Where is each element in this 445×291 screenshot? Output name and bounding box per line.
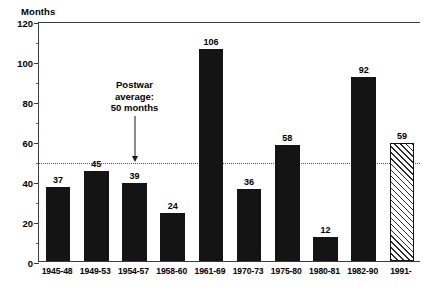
- x-axis-tick-label: 1961-69: [191, 266, 229, 276]
- bar-slot: 92: [345, 23, 383, 261]
- bar-value-label: 36: [244, 177, 254, 187]
- y-axis-tick-label: 120: [17, 18, 33, 29]
- y-axis-tick-label: 20: [22, 218, 33, 229]
- bar-value-label: 58: [282, 133, 292, 143]
- y-axis-tick-label: 100: [17, 58, 33, 69]
- bar[interactable]: [275, 145, 300, 261]
- x-axis-tick-label: 1991-: [382, 266, 420, 276]
- bar[interactable]: [122, 183, 147, 261]
- x-axis-tick-label: 1982-90: [344, 266, 382, 276]
- bar-slot: 12: [306, 23, 344, 261]
- x-axis-tick-label: 1958-60: [153, 266, 191, 276]
- bar[interactable]: [84, 171, 109, 261]
- bar-slot: 58: [268, 23, 306, 261]
- bar[interactable]: [313, 237, 338, 261]
- y-axis-tick-mark: [34, 263, 39, 264]
- annotation-arrow-icon: [130, 116, 140, 162]
- bar-value-label: 59: [397, 131, 407, 141]
- bar[interactable]: [199, 49, 224, 261]
- bar-slot: 24: [154, 23, 192, 261]
- bar-value-label: 39: [129, 171, 139, 181]
- x-axis-tick-label: 1970-73: [229, 266, 267, 276]
- bar[interactable]: [160, 213, 185, 261]
- y-axis-unit-label: Months: [21, 6, 55, 17]
- y-axis-tick-label: 40: [22, 178, 33, 189]
- annotation-line: 50 months: [75, 102, 195, 114]
- bar[interactable]: [46, 187, 71, 261]
- bar-value-label: 106: [203, 37, 218, 47]
- bar-value-label: 12: [320, 225, 330, 235]
- y-axis-tick-label: 60: [22, 138, 33, 149]
- bar-slot: 37: [39, 23, 77, 261]
- bar-slot: 36: [230, 23, 268, 261]
- annotation-line: average:: [75, 91, 195, 103]
- bar-slot: 59: [383, 23, 421, 261]
- bar[interactable]: [351, 77, 376, 261]
- plot-area: 020406080100120374539241063658129259Post…: [38, 22, 420, 262]
- annotation-line: Postwar: [75, 79, 195, 91]
- bar-chart: Months 020406080100120374539241063658129…: [0, 0, 445, 291]
- bar-value-label: 37: [53, 175, 63, 185]
- bar-value-label: 45: [91, 159, 101, 169]
- bar-value-label: 92: [359, 65, 369, 75]
- bar-value-label: 24: [168, 201, 178, 211]
- y-axis-tick-label: 80: [22, 98, 33, 109]
- bar-slot: 106: [192, 23, 230, 261]
- x-axis-tick-label: 1980-81: [305, 266, 343, 276]
- x-axis-tick-label: 1975-80: [267, 266, 305, 276]
- bar[interactable]: [390, 143, 415, 261]
- y-axis-tick-label: 0: [28, 258, 33, 269]
- x-axis-tick-label: 1945-48: [38, 266, 76, 276]
- x-axis-tick-label: 1954-57: [114, 266, 152, 276]
- postwar-average-annotation: Postwaraverage:50 months: [75, 79, 195, 114]
- bar[interactable]: [237, 189, 262, 261]
- bar-slot: 45: [77, 23, 115, 261]
- x-axis-tick-label: 1949-53: [76, 266, 114, 276]
